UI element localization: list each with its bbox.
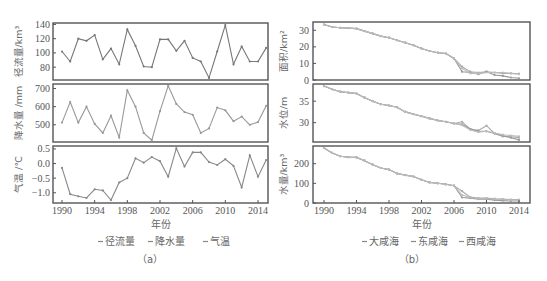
y-axis-label: 面积/km² [278, 30, 289, 72]
data-point [69, 193, 71, 195]
y-axis-label: 水量/km³ [278, 153, 289, 195]
x-tick-label: 1990 [52, 205, 72, 216]
y-tick-label: 0.0 [38, 158, 51, 169]
data-point [518, 135, 520, 137]
data-point [347, 156, 349, 158]
plot-frame [53, 84, 268, 142]
y-tick-label: 100 [294, 178, 309, 189]
data-point [151, 156, 153, 158]
panel-caption: （a） [137, 254, 163, 265]
y-tick-label: 20 [299, 41, 309, 52]
data-point [110, 48, 112, 50]
legend-item-label: 气温 [210, 235, 230, 247]
data-point [396, 172, 398, 174]
data-point [412, 113, 414, 115]
data-point [151, 66, 153, 68]
data-point [494, 71, 496, 73]
data-point [404, 174, 406, 176]
data-point [85, 40, 87, 42]
data-point [94, 123, 96, 125]
data-point [372, 164, 374, 166]
data-point [502, 75, 504, 77]
data-point [469, 196, 471, 198]
data-point [396, 106, 398, 108]
subplot-b-2: 0100200水量/km³ [278, 146, 530, 209]
data-point [77, 38, 79, 40]
data-point [265, 105, 267, 107]
x-tick-label: 1994 [347, 205, 367, 216]
data-point [118, 136, 120, 138]
data-point [445, 52, 447, 54]
data-point [412, 44, 414, 46]
y-tick-label: 30 [299, 25, 309, 36]
plot-frame [53, 23, 268, 80]
plot-frame [313, 22, 530, 80]
data-point [208, 127, 210, 129]
x-tick-label: 2010 [215, 205, 235, 216]
x-tick-label: 2002 [150, 205, 170, 216]
data-point [110, 115, 112, 117]
data-point [364, 30, 366, 32]
y-tick-label: 200 [294, 158, 309, 169]
data-point [445, 183, 447, 185]
data-point [518, 139, 520, 141]
subplot-a-0: 80100120140径流量/km³ [13, 19, 268, 80]
plot-frame [53, 146, 268, 203]
data-point [485, 130, 487, 132]
data-point [364, 160, 366, 162]
data-point [102, 132, 104, 134]
data-point [200, 132, 202, 134]
data-point [134, 106, 136, 108]
data-point [388, 104, 390, 106]
data-point [143, 65, 145, 67]
data-point [477, 198, 479, 200]
data-point [118, 181, 120, 183]
x-tick-label: 1990 [314, 205, 334, 216]
data-point [200, 151, 202, 153]
data-point [355, 156, 357, 158]
legend-a: 径流量降水量气温 [98, 235, 230, 247]
data-point [396, 39, 398, 41]
data-point [380, 103, 382, 105]
data-point [355, 92, 357, 94]
data-point [461, 124, 463, 126]
data-point [331, 88, 333, 90]
data-point [502, 134, 504, 136]
data-point [143, 132, 145, 134]
data-point [192, 114, 194, 116]
data-point [437, 52, 439, 54]
data-point [339, 27, 341, 29]
data-point [429, 117, 431, 119]
x-tick-label: 2002 [412, 205, 432, 216]
data-point [126, 28, 128, 30]
data-point [224, 109, 226, 111]
data-point [510, 135, 512, 137]
y-tick-label: 0 [304, 75, 309, 86]
data-point [380, 167, 382, 169]
subplot-b-0: 0102030面积/km² [278, 22, 530, 86]
data-point [249, 154, 251, 156]
legend-item-label: 西咸海 [466, 235, 496, 247]
x-tick-label: 2010 [477, 205, 497, 216]
y-tick-label: 80 [40, 62, 50, 73]
data-point [118, 63, 120, 65]
series-line-大咸海 [324, 86, 519, 138]
data-point [502, 198, 504, 200]
data-point [364, 97, 366, 99]
data-point [175, 50, 177, 52]
data-point [224, 24, 226, 26]
series-line-降水量 [62, 86, 266, 140]
data-point [167, 38, 169, 40]
data-point [331, 26, 333, 28]
data-point [510, 76, 512, 78]
data-point [265, 159, 267, 161]
data-point [85, 106, 87, 108]
legend-item-label: 大咸海 [369, 235, 399, 247]
data-point [461, 194, 463, 196]
data-point [143, 162, 145, 164]
y-tick-label: 700 [35, 83, 50, 94]
data-point [380, 35, 382, 37]
data-point [388, 37, 390, 39]
data-point [192, 151, 194, 153]
data-point [159, 160, 161, 162]
